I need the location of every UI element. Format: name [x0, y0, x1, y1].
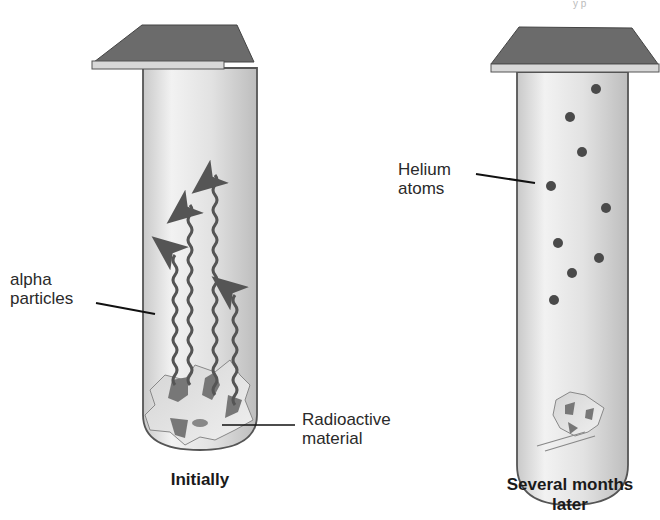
helium-atom: [549, 295, 559, 305]
caption-initially: Initially: [140, 470, 260, 490]
helium-atom: [553, 238, 563, 248]
helium-label-line2: atoms: [398, 179, 451, 198]
left-test-tube: [92, 25, 295, 450]
title-fragment: y p: [573, 0, 587, 9]
helium-atom: [601, 203, 611, 213]
caption-several-months-later: Several months later: [495, 475, 645, 515]
helium-atom: [567, 268, 577, 278]
right-tube-stopper-top: [491, 27, 658, 64]
right-test-tube: [476, 27, 659, 505]
material-label-line1: Radioactive: [302, 410, 391, 429]
radioactive-material-label: Radioactive material: [302, 410, 391, 448]
alpha-particles-label: alpha particles: [10, 270, 73, 308]
left-tube-stopper-top: [94, 25, 254, 62]
material-label-line2: material: [302, 429, 391, 448]
alpha-label-line1: alpha: [10, 270, 73, 289]
alpha-label-line2: particles: [10, 289, 73, 308]
right-tube-stopper-rim: [491, 64, 659, 72]
helium-atoms-label: Helium atoms: [398, 160, 451, 198]
helium-atom: [591, 84, 601, 94]
helium-atom: [565, 112, 575, 122]
helium-atom: [577, 147, 587, 157]
material-fragment: [192, 419, 208, 427]
right-tube-body: [517, 72, 628, 505]
caption-line1: Several months: [495, 475, 645, 495]
helium-atom: [594, 253, 604, 263]
left-tube-stopper-rim: [92, 61, 224, 69]
helium-label-line1: Helium: [398, 160, 451, 179]
helium-atom: [546, 181, 556, 191]
caption-line2: later: [495, 495, 645, 515]
